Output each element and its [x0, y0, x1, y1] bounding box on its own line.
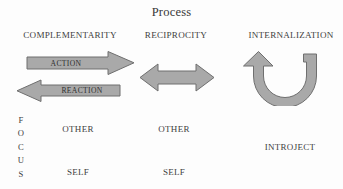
focus-letter-c: C — [12, 141, 30, 154]
reaction-arrow: REACTION — [16, 79, 122, 103]
action-arrow: ACTION — [26, 50, 136, 76]
focus-cell-complementarity-other: OTHER — [40, 124, 116, 134]
focus-letter-u: U — [12, 154, 30, 167]
internalization-arrow-shape — [244, 52, 317, 107]
action-arrow-label: ACTION — [51, 59, 82, 68]
focus-cell-internalization-introject: INTROJECT — [244, 142, 336, 152]
process-header-reciprocity: RECIPROCITY — [130, 30, 222, 40]
process-header-internalization: INTERNALIZATION — [240, 30, 342, 40]
focus-axis-label: F O C U S — [12, 114, 30, 181]
focus-cell-complementarity-self: SELF — [40, 167, 116, 177]
focus-letter-f: F — [12, 114, 30, 127]
diagram-canvas: Process COMPLEMENTARITY RECIPROCITY INTE… — [0, 0, 343, 189]
internalization-arrow — [242, 50, 322, 106]
focus-cell-reciprocity-self: SELF — [136, 167, 212, 177]
focus-cell-reciprocity-other: OTHER — [136, 124, 212, 134]
reaction-arrow-label: REACTION — [61, 86, 102, 95]
diagram-title: Process — [0, 5, 343, 20]
process-header-complementarity: COMPLEMENTARITY — [2, 30, 138, 40]
reciprocity-arrow — [139, 62, 215, 93]
focus-letter-o: O — [12, 127, 30, 140]
focus-letter-s: S — [12, 168, 30, 181]
reciprocity-arrow-shape — [140, 64, 214, 91]
